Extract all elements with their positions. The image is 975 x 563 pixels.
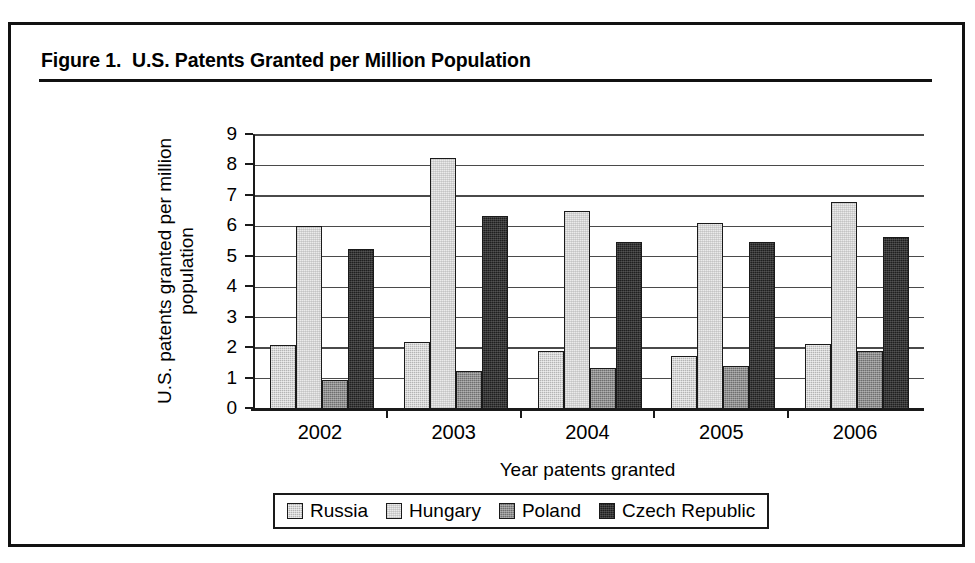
legend-swatch-icon: [287, 503, 303, 519]
y-axis-tick: [245, 346, 253, 348]
legend-item: Russia: [287, 500, 368, 522]
x-axis-tick-label: 2002: [260, 421, 380, 444]
x-axis-tick-label: 2004: [528, 421, 648, 444]
bar: [404, 342, 430, 409]
y-axis-tick: [245, 255, 253, 257]
figure-frame: Figure 1. U.S. Patents Granted per Milli…: [8, 22, 965, 547]
bar: [348, 249, 374, 409]
legend-label: Russia: [310, 500, 368, 522]
x-axis-tick: [386, 408, 388, 418]
bar: [322, 380, 348, 409]
y-axis-tick-label: 3: [211, 307, 237, 326]
bar: [616, 242, 642, 409]
bar-chart: U.S. patents granted per million populat…: [11, 25, 962, 544]
y-axis-tick: [245, 377, 253, 379]
y-axis-tick: [245, 163, 253, 165]
y-axis-tick-label: 1: [211, 368, 237, 387]
bar: [590, 368, 616, 409]
chart-legend: RussiaHungaryPolandCzech Republic: [273, 493, 769, 529]
gridline: [255, 134, 924, 135]
y-axis-tick-label: 0: [211, 398, 237, 417]
bar: [270, 345, 296, 409]
bar: [857, 351, 883, 409]
y-axis-tick: [245, 224, 253, 226]
y-axis-tick: [245, 316, 253, 318]
legend-item: Poland: [499, 500, 581, 522]
bar: [671, 356, 697, 409]
legend-swatch-icon: [499, 503, 515, 519]
bar: [296, 226, 322, 409]
legend-item: Hungary: [386, 500, 481, 522]
legend-label: Hungary: [409, 500, 481, 522]
bar: [883, 237, 909, 409]
bar: [482, 216, 508, 409]
bar: [805, 344, 831, 409]
bar: [456, 371, 482, 409]
x-axis-tick-label: 2006: [795, 421, 915, 444]
legend-item: Czech Republic: [599, 500, 755, 522]
bar: [697, 223, 723, 409]
y-axis-tick: [245, 194, 253, 196]
y-axis-tick-label: 9: [211, 124, 237, 143]
bar: [430, 158, 456, 409]
legend-swatch-icon: [386, 503, 402, 519]
legend-swatch-icon: [599, 503, 615, 519]
gridline: [255, 165, 924, 166]
y-axis-tick-label: 4: [211, 276, 237, 295]
y-axis-tick: [245, 407, 253, 409]
x-axis-tick: [520, 408, 522, 418]
bar: [564, 211, 590, 409]
plot-area: [253, 134, 924, 409]
y-axis-tick-label: 7: [211, 185, 237, 204]
y-axis-tick: [245, 285, 253, 287]
y-axis-tick-label: 6: [211, 215, 237, 234]
bar: [723, 366, 749, 409]
legend-label: Poland: [522, 500, 581, 522]
y-axis-tick-label: 8: [211, 154, 237, 173]
x-axis-tick-label: 2003: [394, 421, 514, 444]
y-axis-tick-label: 5: [211, 246, 237, 265]
bar: [831, 202, 857, 409]
gridline: [255, 226, 924, 227]
x-axis-title: Year patents granted: [253, 459, 922, 481]
y-axis-title: U.S. patents granted per million populat…: [139, 134, 213, 408]
x-axis-tick: [653, 408, 655, 418]
legend-label: Czech Republic: [622, 500, 755, 522]
x-axis-tick-label: 2005: [661, 421, 781, 444]
bar: [538, 351, 564, 409]
x-axis-tick: [787, 408, 789, 418]
y-axis-tick-label: 2: [211, 337, 237, 356]
y-axis-tick: [245, 133, 253, 135]
x-axis-line: [251, 408, 924, 411]
gridline: [255, 195, 924, 196]
bar: [749, 242, 775, 409]
